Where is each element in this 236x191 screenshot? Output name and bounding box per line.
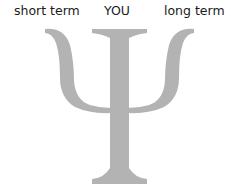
psi-symbol-icon — [0, 0, 236, 191]
psi-glyph — [45, 29, 194, 184]
